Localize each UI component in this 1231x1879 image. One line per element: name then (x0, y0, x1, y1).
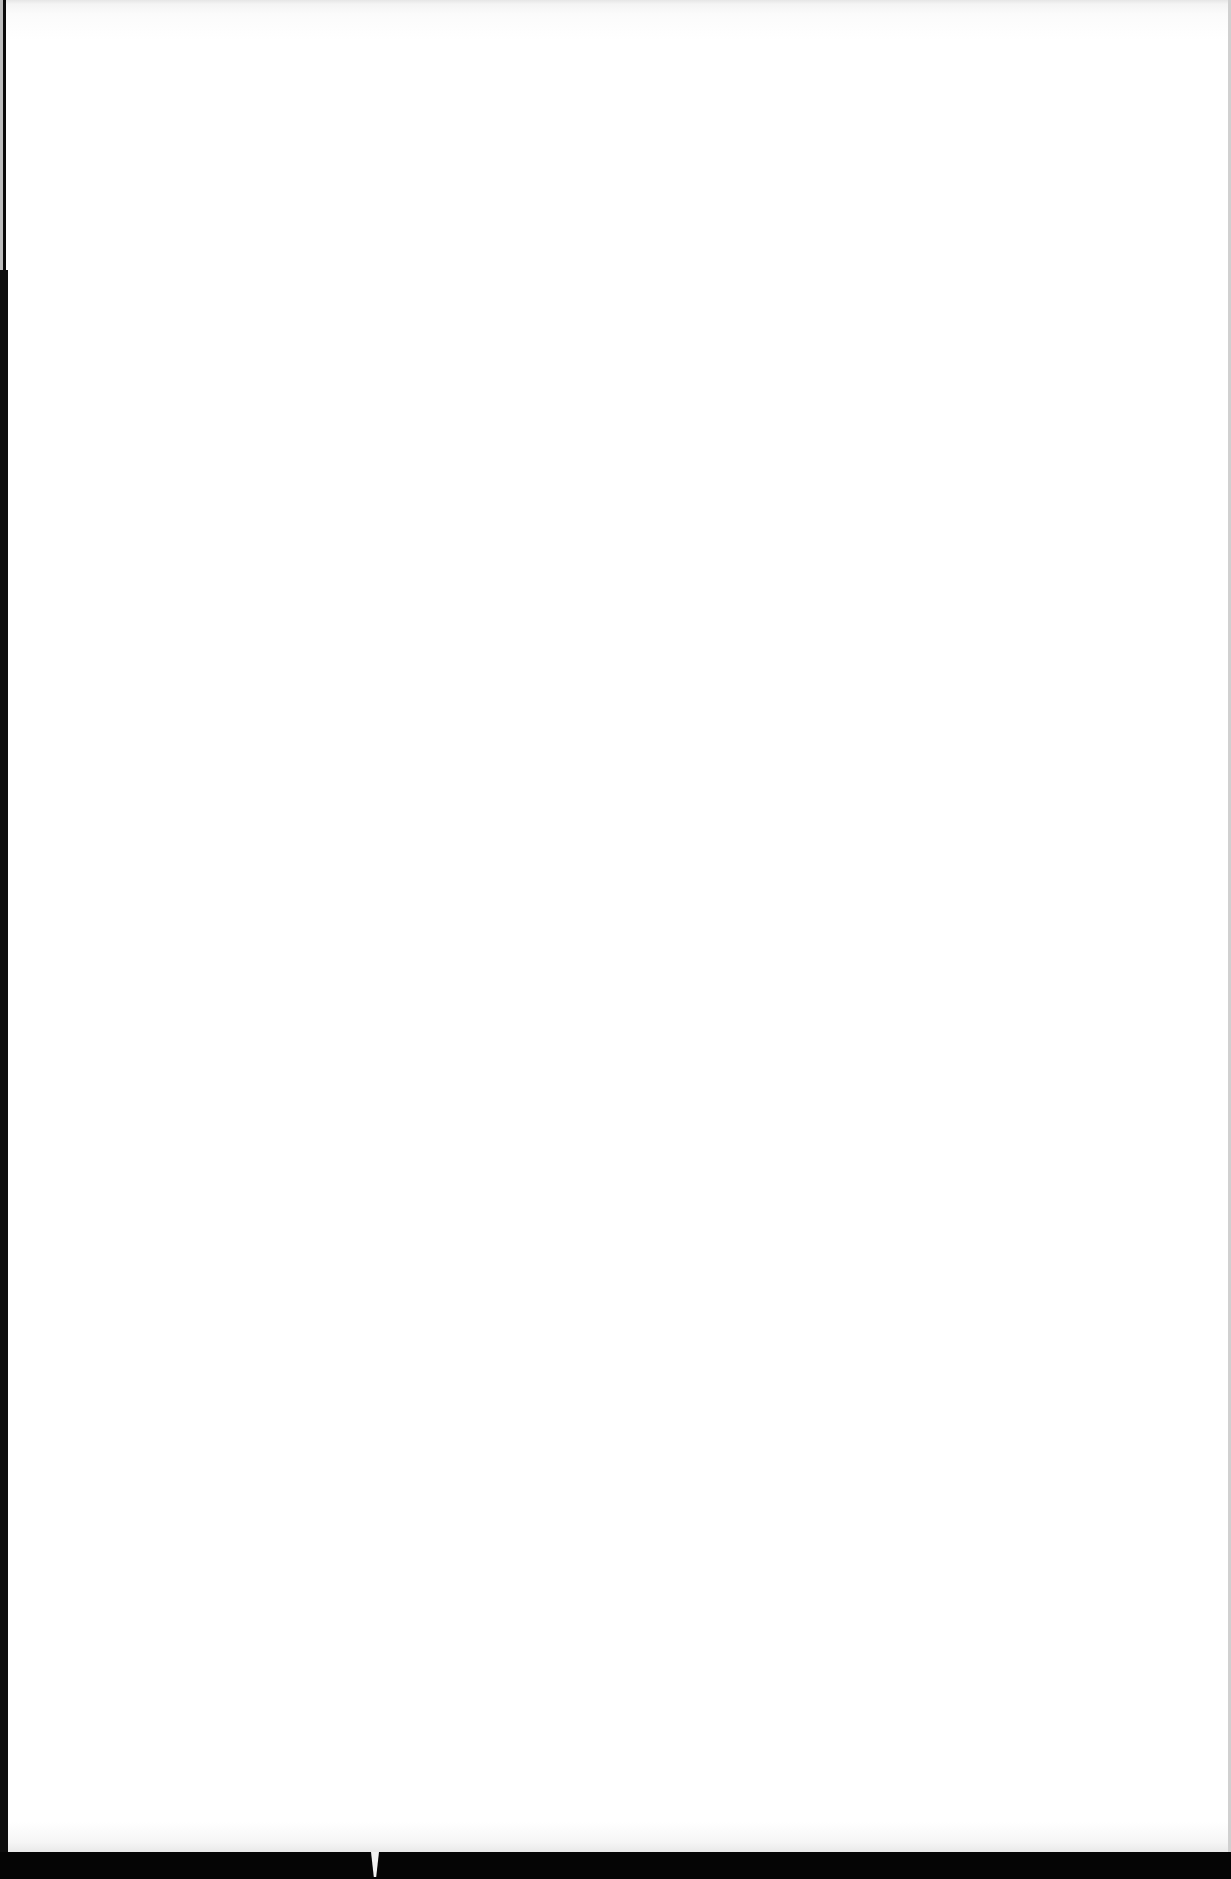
bottom-scan-border (0, 1852, 1231, 1879)
left-scan-edge-shadow (0, 270, 8, 1852)
blank-page (6, 0, 1228, 1852)
left-edge-highlight (0, 0, 3, 270)
scanned-document (0, 0, 1231, 1879)
scan-artifact-notch (371, 1852, 379, 1877)
